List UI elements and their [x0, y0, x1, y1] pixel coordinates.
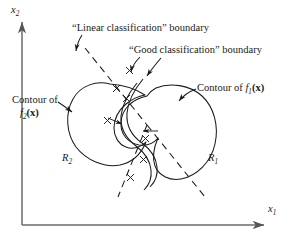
x-mark: [127, 174, 134, 181]
x-mark: [104, 117, 111, 124]
contour-f1-arg: (x): [252, 82, 264, 93]
good-boundary-label: “Good classification” boundary: [129, 44, 262, 55]
contour-f2-curve: [68, 83, 146, 166]
good-label-arrow-2: [147, 58, 161, 76]
x-mark: [140, 156, 147, 163]
region-r1-sub: 1: [214, 158, 218, 166]
y-axis-label-sub: 2: [16, 10, 20, 18]
y-axis-label: x2: [11, 4, 19, 19]
x-mark: [142, 135, 149, 142]
x-mark: [123, 95, 130, 102]
region-r1-label: R1: [208, 152, 218, 167]
region-r2-label: R2: [62, 152, 72, 167]
x-axis-label-sub: 1: [273, 209, 277, 217]
contour-f1-pre: Contour of: [197, 82, 243, 93]
contour-f2-arg: (x): [27, 107, 39, 118]
region-r2-sub: 2: [68, 158, 72, 166]
contour-f1-label: Contour of f1(x): [197, 82, 264, 97]
contour-f2-label-formula: f2(x): [20, 107, 39, 122]
contour-f1-curve: [121, 85, 216, 179]
good-label-arrow: [131, 57, 140, 72]
figure-canvas: “Linear classification” boundary “Good c…: [0, 0, 289, 236]
x-mark: [113, 85, 120, 92]
contour-f2-label-line1: Contour of: [12, 94, 58, 105]
contour-f1-arrow: [179, 89, 196, 101]
diagram-svg: [0, 0, 289, 236]
linear-boundary-label: “Linear classification” boundary: [72, 22, 209, 33]
linear-label-arrow: [76, 35, 82, 51]
x-axis-label: x1: [268, 203, 276, 218]
